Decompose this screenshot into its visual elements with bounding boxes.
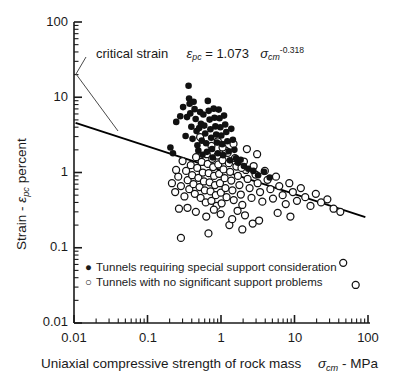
x-tick-label-0.01: 0.01 xyxy=(44,330,104,345)
equation-equals-coefficient: = 1.073 xyxy=(205,46,249,61)
equation-variable-symbol: σ xyxy=(260,46,268,61)
legend-item-open: ○ Tunnels with no significant support pr… xyxy=(84,276,323,288)
y-axis-title-post: percent xyxy=(14,138,29,183)
figure-container: 100 10 1 0.1 0.01 0.01 0.1 1 10 100 Unia… xyxy=(0,0,395,387)
x-axis-title: Uniaxial compressive strength of rock ma… xyxy=(41,356,378,373)
legend-marker-filled-circle-icon: ● xyxy=(84,261,93,273)
equation-exponent: -0.318 xyxy=(280,45,304,55)
critical-strain-annotation: critical strain εpc = 1.073 σcm-0.318 xyxy=(96,45,304,62)
y-axis-title-subscript: pc xyxy=(21,187,31,197)
y-tick-label-10: 10 xyxy=(18,89,68,104)
x-axis-title-post: - MPa xyxy=(342,356,378,371)
annotation-leader-line xyxy=(76,57,118,131)
x-axis-title-pre: Uniaxial compressive strength of rock ma… xyxy=(41,356,301,371)
y-axis-title: Strain - εpc percent xyxy=(14,138,31,250)
x-axis-title-subscript: cm xyxy=(326,363,338,373)
legend-item-filled: ● Tunnels requiring special support cons… xyxy=(84,261,337,273)
equation-lhs-subscript: pc xyxy=(192,52,201,62)
legend-label-open: Tunnels with no significant support prob… xyxy=(96,276,323,288)
legend-marker-open-circle-icon: ○ xyxy=(84,276,93,288)
x-tick-label-1: 1 xyxy=(191,330,251,345)
x-tick-label-100: 100 xyxy=(338,330,395,345)
x-tick-label-0.1: 0.1 xyxy=(118,330,178,345)
y-axis-title-symbol: ε xyxy=(14,197,29,203)
x-axis-title-symbol: σ xyxy=(318,356,326,371)
y-tick-label-100: 100 xyxy=(18,14,68,29)
x-tick-label-10: 10 xyxy=(265,330,325,345)
y-tick-label-0.01: 0.01 xyxy=(18,314,68,329)
legend-label-filled: Tunnels requiring special support consid… xyxy=(96,261,337,273)
y-axis-title-pre: Strain - xyxy=(14,206,29,250)
critical-strain-label: critical strain xyxy=(96,46,168,61)
equation-variable-subscript: cm xyxy=(268,52,280,62)
